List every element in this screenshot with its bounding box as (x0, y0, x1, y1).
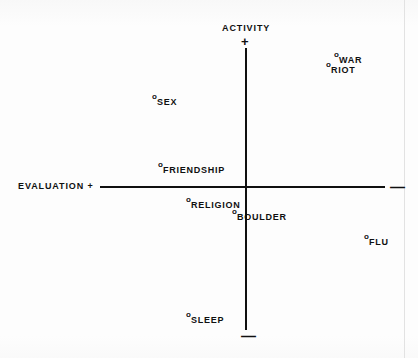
data-point-label: FRIENDSHIP (163, 165, 225, 175)
data-point-flu: oFLU (364, 232, 389, 248)
data-point-friendship: oFRIENDSHIP (158, 160, 225, 176)
data-point-boulder: oBOULDER (232, 207, 287, 223)
vertical-axis-activity (245, 48, 247, 330)
data-point-label: FLU (369, 237, 389, 247)
activity-negative-sign: — (241, 328, 256, 343)
data-point-label: BOULDER (237, 212, 287, 222)
horizontal-axis-evaluation (100, 186, 385, 188)
axis-title-activity: ACTIVITY (222, 24, 270, 33)
axis-title-evaluation: EVALUATION + (18, 182, 94, 191)
data-point-label: RIOT (331, 65, 356, 75)
data-point-sex: oSEX (152, 92, 177, 108)
figure-canvas: ACTIVITY EVALUATION + + — — oWAR oRIOT o… (0, 0, 418, 358)
data-point-label: SEX (157, 97, 177, 107)
data-point-riot: oRIOT (326, 60, 355, 76)
data-point-sleep: oSLEEP (186, 310, 224, 326)
activity-positive-sign: + (241, 35, 249, 48)
data-point-label: SLEEP (191, 315, 224, 325)
evaluation-negative-sign: — (390, 179, 405, 194)
